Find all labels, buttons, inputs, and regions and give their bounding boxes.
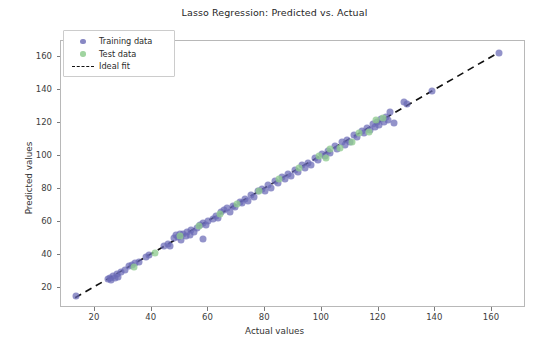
scatter-point-test: [337, 145, 344, 152]
scatter-point-test: [195, 223, 202, 230]
x-tick-label: 80: [259, 312, 270, 322]
scatter-points: [61, 41, 524, 306]
scatter-point-train: [429, 88, 436, 95]
scatter-point-test: [323, 155, 330, 162]
scatter-point-train: [267, 184, 274, 191]
y-tick-label: 60: [41, 216, 52, 226]
legend-marker-training-icon: [70, 39, 96, 45]
chart-legend: Training data Test data Ideal fit: [63, 30, 175, 77]
x-tick-mark: [378, 307, 379, 311]
scatter-point-train: [72, 293, 79, 300]
scatter-point-test: [177, 233, 184, 240]
scatter-point-test: [256, 187, 263, 194]
scatter-point-test: [372, 117, 379, 124]
scatter-point-train: [386, 108, 393, 115]
y-axis-label: Predicted values: [24, 103, 34, 253]
scatter-point-test: [131, 263, 138, 270]
legend-label-training: Training data: [96, 36, 152, 46]
scatter-point-train: [200, 236, 207, 243]
scatter-point-train: [496, 49, 503, 56]
scatter-point-test: [348, 138, 355, 145]
x-tick-label: 160: [483, 312, 499, 322]
x-tick-label: 140: [426, 312, 442, 322]
legend-item-test: Test data: [70, 48, 169, 61]
scatter-point-test: [296, 164, 303, 171]
y-tick-label: 120: [36, 117, 52, 127]
scatter-point-test: [151, 249, 158, 256]
x-tick-mark: [434, 307, 435, 311]
scatter-point-test: [216, 211, 223, 218]
scatter-point-test: [327, 145, 334, 152]
scatter-point-train: [403, 101, 410, 108]
y-tick-label: 140: [36, 84, 52, 94]
legend-marker-test-icon: [70, 51, 96, 57]
x-tick-label: 100: [313, 312, 329, 322]
legend-item-ideal-fit: Ideal fit: [70, 60, 169, 73]
y-tick-label: 80: [41, 183, 52, 193]
y-tick-label: 100: [36, 150, 52, 160]
legend-item-training: Training data: [70, 35, 169, 48]
x-tick-mark: [491, 307, 492, 311]
y-tick-label: 160: [36, 51, 52, 61]
chart-figure: Lasso Regression: Predicted vs. Actual P…: [0, 0, 549, 348]
x-axis-label: Actual values: [0, 326, 549, 336]
x-tick-label: 60: [202, 312, 213, 322]
x-tick-label: 40: [145, 312, 156, 322]
x-tick-mark: [264, 307, 265, 311]
x-tick-mark: [94, 307, 95, 311]
scatter-point-train: [167, 242, 174, 249]
scatter-point-train: [391, 119, 398, 126]
y-tick-label: 20: [41, 282, 52, 292]
scatter-point-test: [233, 201, 240, 208]
x-tick-label: 120: [369, 312, 385, 322]
scatter-point-test: [355, 130, 362, 137]
x-tick-mark: [321, 307, 322, 311]
scatter-point-test: [365, 128, 372, 135]
legend-marker-dashed-line-icon: [70, 66, 96, 67]
scatter-point-train: [287, 172, 294, 179]
x-tick-label: 20: [89, 312, 100, 322]
plot-area: [60, 40, 525, 307]
legend-label-test: Test data: [96, 49, 136, 59]
chart-title: Lasso Regression: Predicted vs. Actual: [0, 7, 549, 18]
x-tick-mark: [207, 307, 208, 311]
scatter-point-test: [379, 115, 386, 122]
scatter-point-test: [316, 153, 323, 160]
scatter-point-test: [276, 176, 283, 183]
y-tick-label: 40: [41, 249, 52, 259]
legend-label-ideal-fit: Ideal fit: [96, 61, 130, 71]
scatter-point-train: [307, 161, 314, 168]
x-tick-mark: [151, 307, 152, 311]
